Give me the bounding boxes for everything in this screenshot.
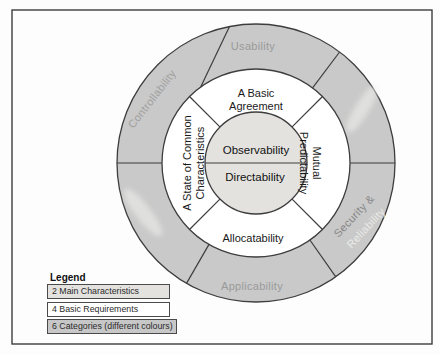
requirement-right-line1: Mutual bbox=[310, 132, 323, 194]
legend-item-basic-requirements: 4 Basic Requirements bbox=[47, 302, 170, 317]
figure-canvas: Observability Directability A Basic Agre… bbox=[0, 0, 440, 355]
legend-item-label: 4 Basic Requirements bbox=[52, 304, 138, 314]
requirement-left: A State of Common Characteristics bbox=[181, 115, 206, 210]
requirement-right: Mutual Predictability bbox=[298, 132, 323, 194]
legend-item-categories: 6 Categories (different colours) bbox=[47, 319, 177, 334]
legend-item-main-characteristics: 2 Main Characteristics bbox=[47, 284, 170, 299]
category-label-applicability: Applicability bbox=[221, 280, 283, 293]
legend-item-label: 6 Categories (different colours) bbox=[52, 321, 173, 331]
requirement-top: A Basic Agreement bbox=[229, 87, 283, 112]
requirement-left-line1: A State of Common bbox=[181, 115, 194, 210]
center-label-directability: Directability bbox=[225, 171, 284, 184]
requirement-bottom: Allocatability bbox=[222, 232, 283, 245]
requirement-left-line2: Characteristics bbox=[193, 115, 206, 210]
legend-item-label: 2 Main Characteristics bbox=[52, 286, 139, 296]
requirement-top-line1: A Basic bbox=[229, 87, 283, 100]
requirement-right-line2: Predictability bbox=[298, 132, 311, 194]
category-label-usability: Usability bbox=[231, 40, 275, 53]
requirement-top-line2: Agreement bbox=[229, 99, 283, 112]
center-label-observability: Observability bbox=[223, 144, 289, 157]
legend-title: Legend bbox=[50, 272, 86, 283]
